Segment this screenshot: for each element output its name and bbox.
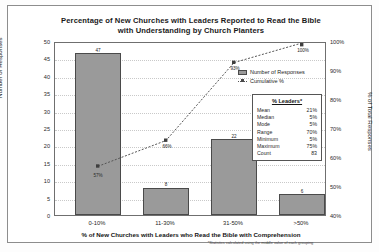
stats-value: 70% bbox=[307, 129, 317, 136]
y-axis-left-tick: 50 bbox=[28, 39, 50, 45]
y-axis-right-tick: 70% bbox=[330, 126, 356, 132]
y-axis-left-title: Number of Responses bbox=[0, 37, 3, 98]
y-axis-left-tick: 10 bbox=[28, 178, 50, 184]
line-marker bbox=[164, 139, 167, 142]
x-axis-tick: 0-10% bbox=[74, 220, 120, 226]
stats-value: 5% bbox=[310, 121, 318, 128]
page-frame: Percentage of New Churches with Leaders … bbox=[7, 5, 372, 243]
x-axis-tick: 31-50% bbox=[210, 220, 256, 226]
y-axis-left-tick: 20 bbox=[28, 143, 50, 149]
stats-label: Mean bbox=[257, 107, 270, 114]
y-axis-right-tick: 60% bbox=[330, 155, 356, 161]
y-axis-left-tick: 25 bbox=[28, 126, 50, 132]
stats-row: Median 5% bbox=[257, 114, 317, 121]
x-axis-tick: 11-30% bbox=[142, 220, 188, 226]
y-axis-left-tick: 30 bbox=[28, 109, 50, 115]
stats-box-title: % Leaders* bbox=[257, 98, 317, 104]
stats-value: 83 bbox=[311, 150, 317, 157]
legend-item-cumulative: Cumulative % bbox=[238, 77, 305, 85]
line-marker bbox=[96, 164, 99, 167]
stats-value: 21% bbox=[307, 107, 317, 114]
y-axis-left-tick: 5 bbox=[28, 196, 50, 202]
x-axis-tick: >50% bbox=[278, 220, 324, 226]
chart-page: Percentage of New Churches with Leaders … bbox=[0, 0, 379, 252]
stats-value: 5% bbox=[310, 114, 318, 121]
stats-row: Maximum 75% bbox=[257, 143, 317, 150]
legend-label: Number of Responses bbox=[250, 69, 305, 75]
cumulative-label: 57% bbox=[75, 173, 121, 178]
legend-label: Cumulative % bbox=[250, 78, 284, 84]
y-axis-right-tick: 90% bbox=[330, 68, 356, 74]
legend-item-responses: Number of Responses bbox=[238, 68, 305, 76]
x-axis-title: % of New Churches with Leaders who Read … bbox=[38, 231, 344, 238]
cumulative-label: 100% bbox=[283, 48, 323, 53]
y-axis-left-tick: 15 bbox=[28, 161, 50, 167]
stats-row: Mean 21% bbox=[257, 107, 317, 114]
stats-label: Range bbox=[257, 129, 272, 136]
cumulative-label: 66% bbox=[147, 144, 187, 149]
stats-label: Maximum bbox=[257, 143, 279, 150]
stats-label: Count bbox=[257, 150, 271, 157]
line-marker bbox=[232, 61, 235, 64]
chart-footnote: *Statistics calculated using the middle … bbox=[158, 240, 363, 245]
line-marker bbox=[300, 43, 303, 46]
stats-value: 5% bbox=[310, 136, 318, 143]
stats-box: % Leaders* Mean 21% Median 5% Mode 5% Ra… bbox=[252, 94, 322, 161]
bar-swatch-icon bbox=[238, 70, 247, 75]
chart-title: Percentage of New Churches with Leaders … bbox=[38, 16, 344, 36]
y-axis-left-tick: 0 bbox=[28, 213, 50, 219]
y-axis-right-tick: 80% bbox=[330, 97, 356, 103]
stats-row: Mode 5% bbox=[257, 121, 317, 128]
line-marker-icon bbox=[238, 79, 247, 84]
stats-label: Mode bbox=[257, 121, 270, 128]
chart-title-line-2: with Understanding by Church Planters bbox=[38, 26, 344, 36]
y-axis-right-tick: 50% bbox=[330, 184, 356, 190]
y-axis-left-tick: 35 bbox=[28, 91, 50, 97]
chart-legend: Number of Responses Cumulative % bbox=[238, 68, 305, 86]
stats-label: Median bbox=[257, 114, 274, 121]
stats-label: Minimum bbox=[257, 136, 278, 143]
y-axis-left-tick: 40 bbox=[28, 74, 50, 80]
stats-row: Minimum 5% bbox=[257, 136, 317, 143]
y-axis-left-tick: 45 bbox=[28, 56, 50, 62]
y-axis-right-tick: 40% bbox=[330, 213, 356, 219]
stats-value: 75% bbox=[307, 143, 317, 150]
stats-row: Range 70% bbox=[257, 129, 317, 136]
chart-title-line-1: Percentage of New Churches with Leaders … bbox=[38, 16, 344, 26]
y-axis-right-title: % of Total Responses bbox=[367, 92, 374, 151]
y-axis-right-tick: 100% bbox=[330, 39, 356, 45]
stats-row: Count 83 bbox=[257, 150, 317, 157]
